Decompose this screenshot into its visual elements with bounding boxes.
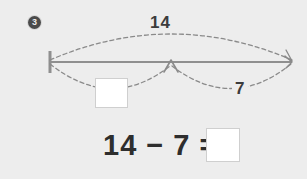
equation-row: 14 − 7 = — [0, 126, 307, 166]
equation-text: 14 − 7 = — [103, 126, 217, 164]
known-part-label: 7 — [232, 80, 248, 97]
whole-arc — [50, 34, 292, 60]
equation-answer-box[interactable] — [206, 128, 240, 162]
total-label: 14 — [147, 14, 174, 31]
worksheet-page: 3 14 7 14 − 7 = — [0, 0, 307, 179]
diagram-answer-box[interactable] — [95, 78, 128, 108]
